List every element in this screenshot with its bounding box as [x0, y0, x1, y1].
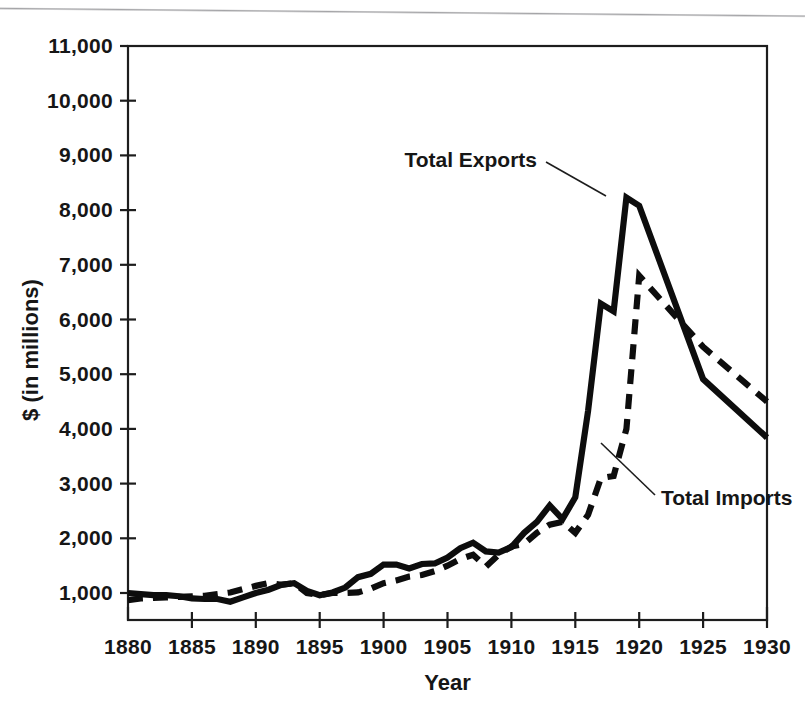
annotation-label-imports: Total Imports [661, 486, 792, 509]
y-tick-label: 5,000 [59, 362, 113, 385]
y-tick-label: 6,000 [59, 308, 113, 331]
x-tick-label: 1895 [296, 635, 344, 658]
annotation-total-exports: Total Exports [404, 148, 606, 196]
chart-figure: 11,000 10,000 9,000 8,000 7,000 6,000 5,… [0, 0, 805, 708]
annotation-total-imports: Total Imports [601, 443, 792, 509]
y-axis-tick-labels: 11,000 10,000 9,000 8,000 7,000 6,000 5,… [47, 34, 113, 604]
x-tick-label: 1905 [424, 635, 472, 658]
y-tick-label: 4,000 [59, 417, 113, 440]
x-tick-label: 1925 [679, 635, 727, 658]
x-axis-title: Year [424, 670, 471, 695]
line-chart: 11,000 10,000 9,000 8,000 7,000 6,000 5,… [0, 0, 805, 708]
x-tick-label: 1920 [615, 635, 663, 658]
leader-line-exports [546, 162, 606, 196]
y-tick-label: 7,000 [59, 253, 113, 276]
x-tick-label: 1900 [360, 635, 408, 658]
x-axis-ticks [128, 607, 767, 628]
leader-line-imports [601, 443, 655, 495]
series-line-total-exports [128, 198, 767, 602]
plot-frame [128, 46, 767, 620]
y-tick-label: 8,000 [59, 198, 113, 221]
y-axis-title: $ (in millions) [18, 279, 43, 421]
x-tick-label: 1890 [232, 635, 280, 658]
y-tick-label: 11,000 [48, 34, 113, 57]
y-tick-label: 10,000 [47, 89, 113, 112]
series-line-total-imports [128, 276, 767, 600]
y-tick-label: 2,000 [59, 526, 113, 549]
x-tick-label: 1880 [104, 635, 152, 658]
x-tick-label: 1915 [551, 635, 599, 658]
y-tick-label: 9,000 [59, 143, 113, 166]
x-tick-label: 1910 [487, 635, 535, 658]
y-tick-label: 1,000 [59, 581, 113, 604]
x-axis-tick-labels: 1880 1885 1890 1895 1900 1905 1910 1915 … [104, 635, 791, 658]
y-tick-label: 3,000 [59, 472, 113, 495]
x-tick-label: 1930 [743, 635, 791, 658]
annotation-label-exports: Total Exports [404, 148, 537, 171]
x-tick-label: 1885 [168, 635, 216, 658]
